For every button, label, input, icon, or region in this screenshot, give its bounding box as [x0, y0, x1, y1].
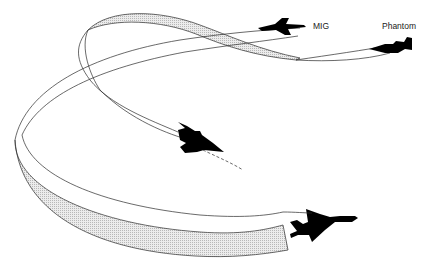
mig-label: MIG	[313, 22, 329, 31]
air-combat-diagram	[0, 0, 434, 263]
phantom-maneuvering-aircraft-icon	[178, 122, 224, 153]
mig-aircraft-icon	[258, 18, 306, 35]
phantom-flight-path-ribbon	[15, 28, 392, 216]
phantom-aircraft-icon	[369, 37, 412, 53]
mig-foreground-aircraft-icon	[290, 209, 358, 242]
mig-flight-path-ribbon	[15, 14, 300, 257]
phantom-label: Phantom	[382, 22, 416, 31]
